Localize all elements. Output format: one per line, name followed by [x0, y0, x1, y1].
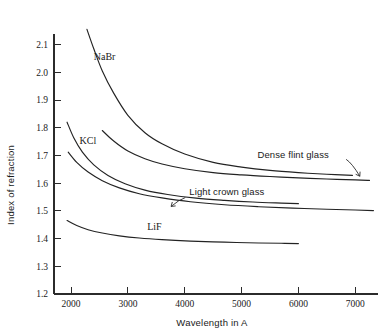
x-tick-label: 3000 [118, 299, 137, 309]
curve-dense-flint-glass [102, 131, 369, 181]
y-axis-tick-labels: 1.21.31.41.51.61.71.81.92.02.1 [36, 40, 48, 299]
annotation-leader-lines [171, 159, 360, 206]
curve-label-nabr: NaBr [94, 51, 116, 62]
y-tick-label: 1.6 [36, 179, 48, 189]
x-axis-ticks [71, 287, 355, 294]
y-axis-ticks [54, 45, 61, 294]
curve-labels-group: NaBrDense flint glassKClLight crown glas… [80, 51, 329, 232]
x-tick-label: 7000 [346, 299, 365, 309]
leader-dense-flint-glass [346, 159, 360, 176]
y-tick-label: 1.3 [36, 262, 48, 272]
y-tick-label: 1.8 [36, 123, 48, 133]
y-tick-label: 2.1 [36, 40, 48, 50]
y-tick-label: 1.2 [36, 289, 48, 299]
y-tick-label: 1.4 [36, 234, 48, 244]
x-axis-tick-labels: 200030004000500060007000 [62, 299, 365, 309]
x-tick-label: 6000 [289, 299, 308, 309]
y-tick-label: 2.0 [36, 68, 48, 78]
refractive-index-chart: 1.21.31.41.51.61.71.81.92.02.1 200030004… [0, 0, 380, 334]
x-tick-label: 5000 [232, 299, 251, 309]
curve-lif [67, 221, 298, 244]
curve-label-light-crown-glass: Light crown glass [189, 186, 264, 197]
y-tick-label: 1.5 [36, 206, 48, 216]
curve-light-crown-glass [68, 152, 373, 210]
leader-light-crown-glass [171, 198, 185, 207]
y-axis-title: Index of refraction [5, 145, 16, 225]
axes-group [54, 34, 378, 294]
curve-label-kcl: KCl [80, 135, 97, 146]
y-tick-label: 1.9 [36, 95, 48, 105]
x-tick-label: 4000 [175, 299, 194, 309]
x-axis-title: Wavelength in A [176, 317, 248, 328]
curve-label-lif: LiF [147, 221, 162, 232]
x-tick-label: 2000 [62, 299, 81, 309]
chart-canvas: 1.21.31.41.51.61.71.81.92.02.1 200030004… [0, 0, 380, 334]
y-tick-label: 1.7 [36, 151, 48, 161]
curve-label-dense-flint-glass: Dense flint glass [257, 149, 329, 160]
